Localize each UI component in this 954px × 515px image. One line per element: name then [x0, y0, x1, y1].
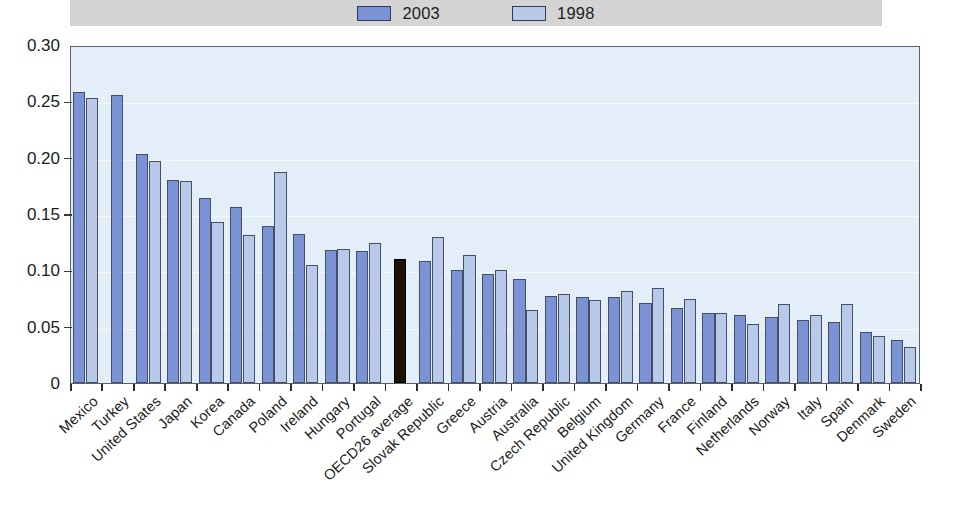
x-tick-label: Turkey — [89, 393, 132, 435]
bar-1998 — [432, 237, 444, 383]
x-tick-mark — [290, 384, 292, 391]
x-tick-mark — [763, 384, 765, 391]
x-axis-ticks — [70, 384, 920, 391]
x-tick-label: Norway — [746, 393, 793, 439]
bar-2003 — [702, 313, 714, 383]
x-tick-mark — [133, 384, 135, 391]
bar-2003 — [394, 259, 406, 383]
x-tick-mark — [637, 384, 639, 391]
bar-2003 — [230, 207, 242, 383]
x-tick-mark — [889, 384, 891, 391]
x-tick-mark — [385, 384, 387, 391]
legend-entry-1998: 1998 — [512, 4, 595, 23]
bar-2003 — [576, 297, 588, 383]
bar-2003 — [734, 315, 746, 383]
bar-2003 — [293, 234, 305, 383]
x-tick-label: Japan — [155, 393, 195, 432]
x-tick-label: Netherlands — [693, 393, 762, 459]
bar-2003 — [513, 279, 525, 383]
x-tick-mark — [322, 384, 324, 391]
bar-1998 — [747, 324, 759, 383]
bar-2003 — [828, 322, 840, 383]
x-tick-label: Australia — [489, 393, 542, 444]
legend-swatch-2003 — [357, 6, 391, 21]
x-tick-mark — [164, 384, 166, 391]
x-tick-label: Korea — [187, 393, 227, 431]
bar-2003 — [136, 154, 148, 383]
bar-2003 — [356, 251, 368, 383]
bar-1998 — [243, 235, 255, 383]
y-tick-label: 0.25 — [0, 92, 60, 112]
x-tick-mark — [794, 384, 796, 391]
bar-1998 — [621, 291, 633, 383]
bar-2003 — [451, 270, 463, 383]
x-tick-mark — [731, 384, 733, 391]
x-tick-label: Ireland — [277, 393, 321, 435]
x-tick-label: Sweden — [869, 393, 919, 441]
x-tick-label: OECD26 average — [320, 393, 416, 484]
bar-1998 — [810, 315, 822, 383]
bar-1998 — [337, 249, 349, 383]
bar-2003 — [325, 250, 337, 383]
x-tick-label: Denmark — [833, 393, 887, 445]
x-tick-mark — [479, 384, 481, 391]
x-tick-mark — [826, 384, 828, 391]
bar-1998 — [149, 161, 161, 383]
bars-layer — [71, 47, 919, 383]
x-tick-mark — [542, 384, 544, 391]
bar-1998 — [558, 294, 570, 383]
x-tick-label: Austria — [465, 393, 509, 436]
x-tick-mark — [259, 384, 261, 391]
x-tick-label: United Kingdom — [548, 393, 635, 476]
x-tick-mark — [511, 384, 513, 391]
bar-1998 — [180, 181, 192, 383]
legend-swatch-1998 — [512, 6, 546, 21]
bar-2003 — [860, 332, 872, 383]
x-tick-label: Spain — [818, 393, 856, 430]
x-tick-label: Poland — [245, 393, 289, 436]
legend-band: 2003 1998 — [70, 0, 882, 26]
bar-1998 — [86, 98, 98, 383]
x-tick-mark — [196, 384, 198, 391]
bar-2003 — [262, 226, 274, 383]
bar-1998 — [684, 299, 696, 384]
x-tick-mark — [668, 384, 670, 391]
bar-1998 — [904, 347, 916, 383]
bar-2003 — [765, 317, 777, 383]
bar-1998 — [715, 313, 727, 383]
bar-1998 — [526, 310, 538, 383]
bar-2003 — [419, 261, 431, 383]
x-tick-label: Slovak Republic — [359, 393, 447, 477]
x-tick-label: Finland — [684, 393, 730, 438]
bar-1998 — [306, 265, 318, 383]
bar-1998 — [369, 243, 381, 383]
bar-1998 — [211, 222, 223, 383]
bar-1998 — [463, 255, 475, 383]
x-tick-label: Canada — [210, 393, 259, 440]
x-tick-label: Hungary — [301, 393, 353, 443]
bar-2003 — [891, 340, 903, 383]
x-tick-mark — [416, 384, 418, 391]
x-tick-label: Portugal — [333, 393, 384, 442]
x-tick-mark — [227, 384, 229, 391]
x-tick-mark — [448, 384, 450, 391]
x-tick-label: Belgium — [555, 393, 605, 441]
bar-2003 — [797, 320, 809, 383]
x-tick-mark — [605, 384, 607, 391]
bar-2003 — [111, 95, 123, 383]
legend-label-1998: 1998 — [557, 4, 595, 23]
x-tick-label: Italy — [794, 393, 825, 423]
x-tick-mark — [574, 384, 576, 391]
x-tick-mark — [101, 384, 103, 391]
x-tick-mark — [353, 384, 355, 391]
x-tick-label: Czech Republic — [487, 393, 573, 475]
x-tick-label: Greece — [432, 393, 478, 438]
legend-entry-2003: 2003 — [357, 4, 440, 23]
y-tick-label: 0 — [0, 374, 60, 394]
bar-1998 — [274, 172, 286, 383]
bar-1998 — [841, 304, 853, 383]
bar-2003 — [73, 92, 85, 383]
plot-area — [70, 46, 920, 384]
x-tick-mark — [857, 384, 859, 391]
y-tick-label: 0.05 — [0, 318, 60, 338]
